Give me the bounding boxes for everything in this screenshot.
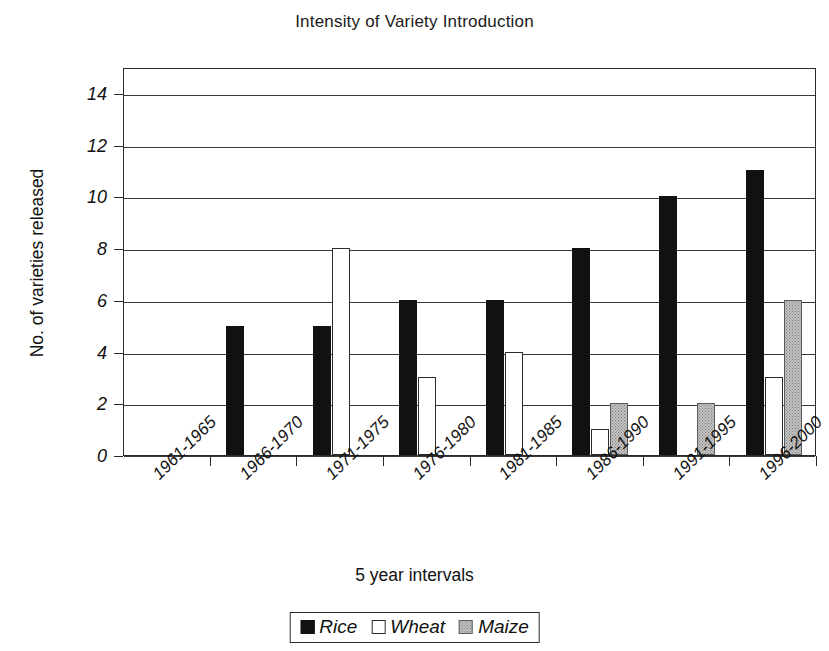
bar-rice-1976-1980	[399, 300, 417, 455]
legend-swatch-wheat-icon	[371, 620, 385, 634]
bar-rice-1991-1995	[659, 196, 677, 455]
x-tick-mark	[556, 456, 557, 466]
legend-item-maize[interactable]: Maize	[459, 616, 529, 638]
y-tick-label: 8	[65, 239, 107, 260]
y-tick-label: 12	[65, 135, 107, 156]
bar-wheat-1971-1975	[332, 248, 350, 455]
chart-legend: RiceWheatMaize	[289, 612, 540, 643]
x-axis-title: 5 year intervals	[0, 565, 829, 586]
x-tick-mark	[210, 456, 211, 466]
legend-label: Rice	[319, 616, 357, 638]
y-axis-title-container: No. of varieties released	[22, 68, 52, 458]
x-tick-mark	[816, 456, 817, 466]
y-tick-mark	[114, 456, 123, 457]
chart-figure: Intensity of Variety Introduction No. of…	[0, 0, 829, 651]
bar-rice-1986-1990	[572, 248, 590, 455]
bar-rice-1966-1970	[226, 326, 244, 455]
legend-item-rice[interactable]: Rice	[300, 616, 357, 638]
bars-layer	[124, 69, 815, 455]
y-tick-label: 14	[65, 83, 107, 104]
legend-swatch-rice-icon	[300, 620, 314, 634]
x-tick-mark	[643, 456, 644, 466]
y-tick-label: 10	[65, 187, 107, 208]
bar-rice-1981-1985	[486, 300, 504, 455]
y-tick-label: 4	[65, 342, 107, 363]
y-tick-mark	[114, 94, 123, 95]
chart-title: Intensity of Variety Introduction	[0, 12, 829, 32]
bar-rice-1971-1975	[313, 326, 331, 455]
bar-rice-1996-2000	[746, 170, 764, 455]
y-tick-label: 6	[65, 290, 107, 311]
x-tick-mark	[383, 456, 384, 466]
legend-label: Wheat	[390, 616, 445, 638]
y-tick-mark	[114, 249, 123, 250]
y-axis-title: No. of varieties released	[27, 169, 48, 358]
y-tick-mark	[114, 146, 123, 147]
legend-item-wheat[interactable]: Wheat	[371, 616, 445, 638]
bar-wheat-1976-1980	[418, 377, 436, 455]
plot-area	[123, 68, 816, 456]
legend-swatch-maize-icon	[459, 620, 473, 634]
legend-label: Maize	[478, 616, 529, 638]
y-tick-label: 0	[65, 446, 107, 467]
bar-wheat-1981-1985	[505, 352, 523, 455]
y-tick-mark	[114, 301, 123, 302]
y-tick-mark	[114, 353, 123, 354]
x-tick-mark	[729, 456, 730, 466]
x-tick-mark	[296, 456, 297, 466]
x-tick-mark	[470, 456, 471, 466]
y-tick-label: 2	[65, 394, 107, 415]
y-tick-mark	[114, 404, 123, 405]
y-tick-mark	[114, 197, 123, 198]
